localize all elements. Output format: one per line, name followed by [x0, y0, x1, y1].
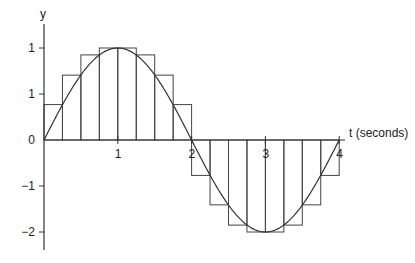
- bar: [99, 48, 117, 140]
- bar: [302, 140, 320, 205]
- x-axis-label: t (seconds): [349, 126, 408, 140]
- x-tick-label: 4: [336, 147, 343, 161]
- x-tick-label: 1: [115, 147, 122, 161]
- bar: [229, 140, 247, 225]
- y-ticks: 110−1−2: [21, 41, 44, 239]
- bar: [62, 75, 80, 140]
- bar: [136, 55, 154, 140]
- y-tick-label: 0: [28, 133, 35, 147]
- x-tick-label: 2: [189, 147, 196, 161]
- bar: [81, 55, 99, 140]
- bar: [284, 140, 302, 225]
- y-axis-label: y: [40, 7, 46, 21]
- y-tick-label: −2: [21, 225, 35, 239]
- x-tick-label: 3: [262, 147, 269, 161]
- y-tick-label: −1: [21, 179, 35, 193]
- bar: [210, 140, 228, 205]
- riemann-sum-chart: 1234 110−1−2 y t (seconds): [0, 0, 415, 263]
- bar: [155, 75, 173, 140]
- bar: [118, 48, 136, 140]
- y-tick-label: 1: [28, 41, 35, 55]
- y-tick-label: 1: [28, 87, 35, 101]
